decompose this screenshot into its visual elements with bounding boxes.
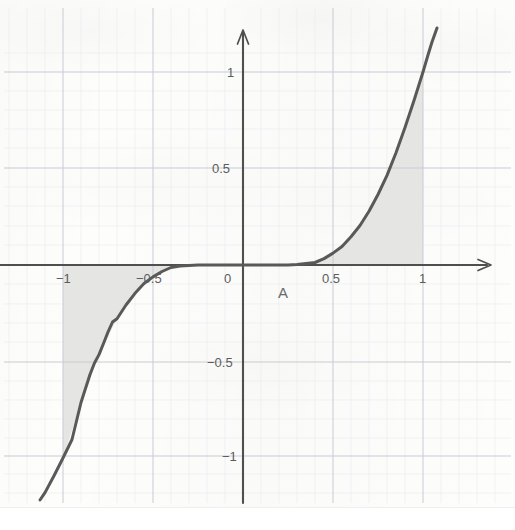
xtick-label-pos0_5: 0.5 [322, 272, 340, 285]
xtick-label-neg0_5: −0.5 [136, 272, 162, 285]
plot-canvas [0, 0, 515, 507]
xtick-label-pos1: 1 [419, 272, 426, 285]
xtick-label-neg1: −1 [56, 272, 71, 285]
major-gridlines [4, 8, 511, 503]
xtick-label-zero: 0 [224, 272, 231, 285]
ytick-label-neg0_5: −0.5 [207, 356, 233, 369]
page-bottom-margin [0, 507, 515, 530]
graph-figure: −1 −0.5 0 0.5 1 1 0.5 −0.5 −1 A [0, 0, 515, 530]
ytick-label-pos0_5: 0.5 [212, 162, 230, 175]
region-label-a: A [278, 285, 288, 300]
ytick-label-pos1: 1 [227, 66, 234, 79]
ytick-label-neg1: −1 [222, 450, 237, 463]
minor-gridlines [4, 8, 511, 503]
